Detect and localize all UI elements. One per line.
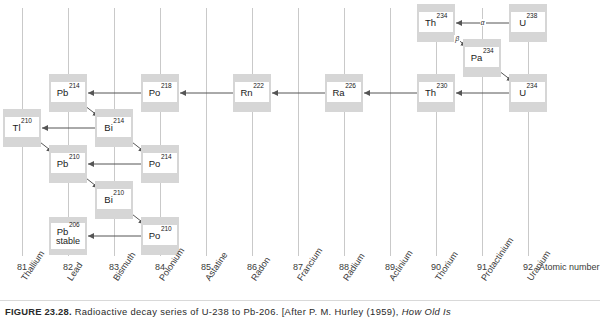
nuclide-box-rn222[interactable]: Rn222	[233, 74, 271, 112]
nuclide-box-u234[interactable]: U234	[509, 74, 547, 112]
nuclide-symbol-mass: U238	[519, 17, 537, 28]
nuclide-label-pb214: Pb214	[51, 82, 85, 102]
nuclide-symbol-mass: Po210	[149, 230, 171, 241]
nuclide-symbol-mass: Ra226	[332, 87, 355, 98]
nuclide-symbol-mass: Tl210	[13, 122, 32, 133]
nuclide-box-th234[interactable]: Th234	[417, 4, 455, 42]
nuclide-box-ra226[interactable]: Ra226	[325, 74, 363, 112]
nuclide-symbol-mass: Pb210	[57, 158, 79, 169]
nuclide-note: stable	[56, 237, 80, 246]
nuclide-label-th234: Th234	[419, 12, 453, 32]
decay-mode-label-th234: β	[454, 35, 460, 42]
nuclide-box-pb214[interactable]: Pb214	[49, 74, 87, 112]
nuclide-box-pb206[interactable]: Pb206stable	[49, 217, 87, 255]
decay-series-figure: U238Th234Pa234U234Th230Ra226Rn222Po218Pb…	[0, 0, 600, 325]
nuclide-symbol-mass: Bi210	[104, 194, 123, 205]
nuclide-label-rn222: Rn222	[235, 82, 269, 102]
decay-diagram-plot: U238Th234Pa234U234Th230Ra226Rn222Po218Pb…	[0, 0, 600, 268]
nuclide-box-pb210[interactable]: Pb210	[49, 145, 87, 183]
nuclide-symbol-mass: Pb206	[57, 226, 79, 237]
nuclide-label-pa234: Pa234	[465, 47, 499, 67]
nuclide-box-bi210[interactable]: Bi210	[95, 181, 133, 219]
nuclide-symbol-mass: Rn222	[240, 87, 263, 98]
nuclide-box-bi214[interactable]: Bi214	[95, 109, 133, 147]
nuclide-symbol-mass: Po218	[149, 87, 171, 98]
nuclide-box-pa234[interactable]: Pa234	[463, 39, 501, 77]
nuclide-symbol-mass: Th234	[425, 17, 447, 28]
nuclide-label-bi214: Bi214	[97, 117, 131, 137]
decay-mode-label-u238: α	[480, 19, 486, 26]
nuclide-symbol-mass: Pb214	[57, 87, 79, 98]
nuclide-label-u234: U234	[511, 82, 545, 102]
nuclide-label-th230: Th230	[419, 82, 453, 102]
nuclide-label-ra226: Ra226	[327, 82, 361, 102]
figure-caption: FIGURE 23.28. Radioactive decay series o…	[5, 306, 597, 317]
nuclide-box-po210[interactable]: Po210	[141, 217, 179, 255]
nuclide-box-po218[interactable]: Po218	[141, 74, 179, 112]
nuclide-box-po214[interactable]: Po214	[141, 145, 179, 183]
caption-figure-number: FIGURE 23.28.	[5, 306, 72, 317]
nuclide-label-pb210: Pb210	[51, 153, 85, 173]
nuclide-label-u238: U238	[511, 12, 545, 32]
nuclide-symbol-mass: Th230	[425, 87, 447, 98]
caption-body: Radioactive decay series of U-238 to Pb-…	[72, 306, 402, 317]
nuclide-label-po214: Po214	[143, 153, 177, 173]
caption-source-title: How Old Is	[402, 306, 451, 317]
nuclide-label-tl210: Tl210	[5, 117, 39, 137]
nuclide-symbol-mass: Bi214	[104, 122, 123, 133]
caption-divider	[0, 300, 600, 301]
nuclide-box-th230[interactable]: Th230	[417, 74, 455, 112]
nuclide-box-u238[interactable]: U238	[509, 4, 547, 42]
nuclide-symbol-mass: Pa234	[471, 52, 493, 63]
nuclide-label-pb206: Pb206stable	[51, 223, 85, 249]
nuclide-box-tl210[interactable]: Tl210	[3, 109, 41, 147]
nuclide-label-bi210: Bi210	[97, 189, 131, 209]
nuclide-label-po218: Po218	[143, 82, 177, 102]
nuclide-symbol-mass: U234	[519, 87, 537, 98]
nuclide-label-po210: Po210	[143, 225, 177, 245]
axis-title: Atomic number	[539, 262, 600, 272]
nuclide-symbol-mass: Po214	[149, 158, 171, 169]
